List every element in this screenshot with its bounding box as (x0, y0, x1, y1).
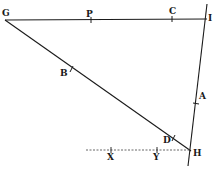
tick-a (193, 103, 199, 104)
segment-gh (5, 20, 191, 151)
label-d: D (163, 135, 171, 145)
label-i: I (208, 13, 212, 23)
label-x: X (107, 152, 114, 162)
label-p: P (86, 9, 93, 19)
label-a: A (198, 91, 207, 101)
segment-ih (188, 4, 207, 166)
label-b: B (60, 68, 68, 78)
segment-gi (5, 19, 207, 20)
label-y: Y (152, 152, 160, 162)
label-g: G (2, 8, 10, 18)
geometry-diagram: G P C I B A D H X Y (0, 0, 216, 174)
label-h: H (193, 148, 202, 158)
label-c: C (169, 6, 176, 16)
